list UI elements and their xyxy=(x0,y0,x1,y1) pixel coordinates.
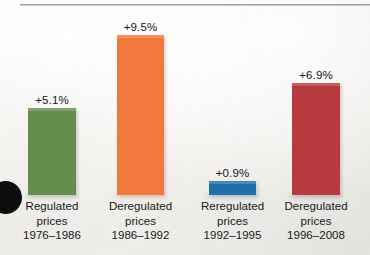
bar-group-regulated-1976-1986: +5.1% Regulated prices 1976–1986 xyxy=(28,0,76,255)
category-line-1: Deregulated xyxy=(261,199,370,214)
bar-value-label: +5.1% xyxy=(35,94,68,106)
bar-value-label: +0.9% xyxy=(216,167,249,179)
bar-deregulated-1996-2008[interactable] xyxy=(292,83,340,195)
bar-value-label: +9.5% xyxy=(124,21,157,33)
bar-group-deregulated-1986-1992: +9.5% Deregulated prices 1986–1992 xyxy=(117,0,164,255)
category-line-2: prices xyxy=(261,214,370,229)
chart-figure: +5.1% Regulated prices 1976–1986 +9.5% D… xyxy=(0,0,370,255)
category-line-3: 1996–2008 xyxy=(261,228,370,243)
bar-deregulated-1986-1992[interactable] xyxy=(117,35,164,195)
bar-category-label: Deregulated prices 1996–2008 xyxy=(261,199,370,243)
bar-regulated-1976-1986[interactable] xyxy=(28,108,76,195)
bar-chart-plot-area: +5.1% Regulated prices 1976–1986 +9.5% D… xyxy=(0,0,370,255)
bar-group-deregulated-1996-2008: +6.9% Deregulated prices 1996–2008 xyxy=(292,0,340,255)
bar-group-reregulated-1992-1995: +0.9% Reregulated prices 1992–1995 xyxy=(209,0,256,255)
bar-reregulated-1992-1995[interactable] xyxy=(209,181,256,195)
bar-value-label: +6.9% xyxy=(299,69,332,81)
